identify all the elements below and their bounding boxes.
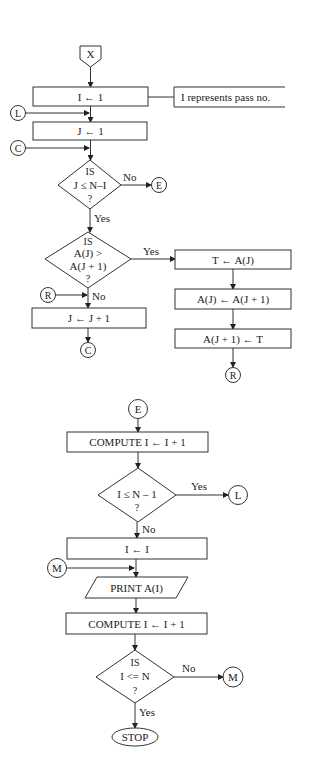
process-inc-j-label: J ← J + 1 (68, 312, 110, 324)
decision-3-no-label: No (142, 523, 156, 535)
process-swap-2: A(J) ← A(J + 1) (175, 289, 291, 309)
process-swap-3: A(J + 1) ← T (175, 329, 291, 348)
decision-3-line1: I ≤ N – 1 (117, 488, 157, 500)
process-init-j: J ← 1 (33, 122, 147, 140)
connector-r-in-label: R (45, 290, 52, 301)
decision-2-yes-label: Yes (143, 245, 159, 257)
decision-i-le-n-minus-1: I ≤ N – 1 ? (98, 468, 176, 522)
decision-2-line3: A(J + 1) (70, 260, 107, 273)
start-offpage-connector: X (80, 46, 101, 67)
connector-m-in-label: M (52, 562, 62, 574)
decision-4-line1: IS (131, 657, 140, 668)
connector-c-out: C (81, 343, 96, 358)
connector-m-in: M (48, 559, 67, 578)
connector-e-out: E (152, 178, 167, 193)
process-reset-i: I ← I (67, 538, 207, 559)
process-inc-j: J ← J + 1 (32, 308, 146, 328)
connector-r-in: R (41, 288, 56, 303)
terminal-stop: STOP (112, 728, 158, 746)
connector-c: C (11, 141, 26, 156)
decision-2-no-label: No (92, 290, 106, 302)
process-compute-i-2-label: COMPUTE I ← I + 1 (88, 618, 184, 630)
terminal-stop-label: STOP (122, 731, 149, 743)
decision-1-no-label: No (123, 171, 137, 183)
process-compute-i-1-label: COMPUTE I ← I + 1 (89, 436, 185, 448)
io-print-label: PRINT A(I) (110, 582, 163, 595)
connector-e-in-label: E (135, 403, 142, 415)
process-swap-3-label: A(J + 1) ← T (203, 333, 263, 346)
decision-i-le-n: IS I <= N ? (96, 650, 174, 703)
process-swap-2-label: A(J) ← A(J + 1) (197, 293, 270, 306)
connector-c-out-label: C (85, 345, 92, 356)
io-print-ai: PRINT A(I) (85, 577, 188, 598)
decision-3-yes-label: Yes (191, 480, 207, 492)
decision-1-yes-label: Yes (94, 212, 110, 224)
connector-m-out: M (223, 667, 243, 687)
connector-l-label: L (15, 108, 21, 119)
connector-c-label: C (15, 143, 22, 154)
decision-2-line2: A(J) > (74, 247, 103, 260)
decision-1-line3: ? (88, 193, 93, 204)
connector-x-label: X (87, 48, 95, 60)
decision-4-yes-label: Yes (139, 706, 155, 718)
connector-e-out-label: E (156, 180, 162, 191)
decision-2-line1: IS (84, 236, 93, 247)
connector-m-out-label: M (228, 671, 238, 683)
decision-1-line2: J ≤ N–I (74, 179, 107, 191)
sorting-flowchart: X I ← 1 I represents pass no. L J ← 1 C … (0, 0, 310, 781)
process-swap-1: T ← A(J) (175, 250, 291, 269)
connector-r-out: R (226, 368, 241, 383)
decision-4-no-label: No (182, 662, 196, 674)
connector-l-out-label: L (235, 489, 242, 501)
decision-aj-gt-aj1: IS A(J) > A(J + 1) ? (45, 232, 131, 288)
process-compute-i-1: COMPUTE I ← I + 1 (67, 432, 208, 452)
connector-e-in: E (129, 400, 148, 419)
connector-l: L (11, 106, 26, 121)
decision-2-line4: ? (86, 273, 91, 284)
decision-j-le-n-minus-i: IS J ≤ N–I ? (58, 160, 121, 209)
annotation-text: I represents pass no. (181, 91, 270, 103)
process-init-j-label: J ← 1 (77, 125, 103, 137)
annotation-box: I represents pass no. (174, 87, 285, 107)
process-reset-i-label: I ← I (125, 543, 149, 555)
process-init-i: I ← 1 (33, 87, 148, 106)
process-swap-1-label: T ← A(J) (212, 254, 254, 267)
decision-4-line2: I <= N (120, 670, 150, 682)
process-init-i-label: I ← 1 (78, 91, 104, 103)
connector-l-out: L (229, 486, 248, 505)
process-compute-i-2: COMPUTE I ← I + 1 (66, 613, 207, 634)
decision-4-line3: ? (133, 685, 138, 696)
decision-1-line1: IS (86, 166, 95, 177)
decision-3-line2: ? (135, 502, 140, 513)
connector-r-out-label: R (230, 370, 237, 381)
